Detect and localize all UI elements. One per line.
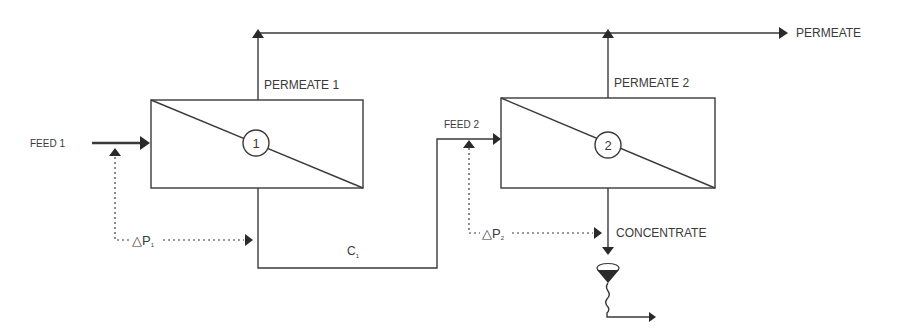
arrow-right-delta-p1-icon — [245, 234, 253, 246]
concentrate-output-label: CONCENTRATE — [616, 226, 706, 240]
arrow-down-concentrate-icon — [602, 247, 614, 255]
permeate-output-label: PERMEATE — [796, 26, 861, 40]
arrow-up-delta-p2-icon — [463, 140, 475, 148]
permeate-2-label: PERMEATE 2 — [614, 76, 689, 90]
arrow-right-permeate-icon — [779, 27, 788, 39]
permeate-1-label: PERMEATE 1 — [264, 78, 339, 92]
delta-p2-label: △P2 — [482, 226, 505, 241]
drain-funnel-icon — [597, 264, 619, 284]
arrow-right-feed-1-icon — [140, 136, 150, 150]
intermediate-stream-label: C1 — [347, 244, 360, 259]
feed-2-label: FEED 2 — [444, 119, 479, 130]
feed-1-label: FEED 1 — [30, 138, 65, 149]
membrane-process-diagram: 1 2 FEED 1 FEED 2 PERMEATE 1 PERMEATE 2 … — [0, 0, 922, 328]
delta-p2-line-a — [469, 148, 480, 233]
arrow-right-delta-p2-icon — [594, 227, 602, 239]
concentrate-1-line — [258, 139, 494, 268]
delta-p1-label: △P1 — [132, 233, 155, 248]
delta-p1-line-a — [115, 157, 130, 240]
module-1-number: 1 — [252, 136, 259, 151]
drain-squiggle — [606, 283, 650, 317]
module-2-number: 2 — [604, 138, 611, 153]
arrow-up-delta-p1-icon — [109, 148, 121, 156]
arrow-right-drain-icon — [649, 312, 656, 322]
arrow-right-feed-2-icon — [493, 133, 501, 145]
flow-diagram-svg: 1 2 FEED 1 FEED 2 PERMEATE 1 PERMEATE 2 … — [0, 0, 922, 328]
